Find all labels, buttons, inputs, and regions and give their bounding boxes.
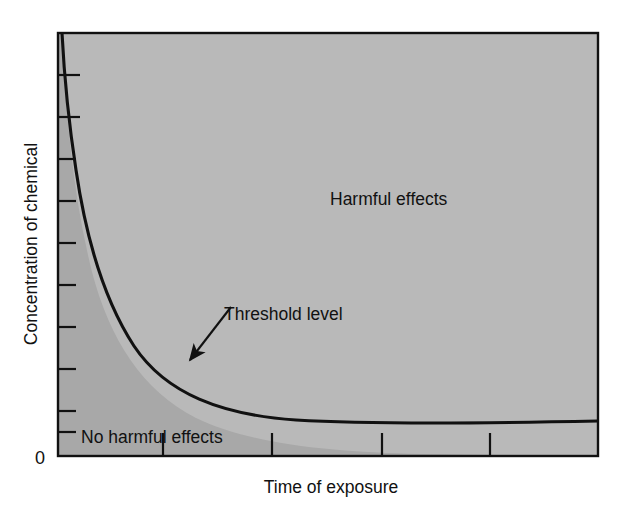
- plot-regions: [58, 33, 598, 456]
- y-axis-title: Concentration of chemical: [21, 143, 41, 345]
- no-harmful-effects-label: No harmful effects: [81, 427, 223, 447]
- origin-label: 0: [35, 448, 45, 468]
- harmful-effects-label: Harmful effects: [330, 189, 448, 209]
- x-axis-title: Time of exposure: [264, 477, 399, 497]
- chart-figure: Concentration of chemical Time of exposu…: [0, 0, 626, 519]
- chart-canvas: Concentration of chemical Time of exposu…: [0, 0, 626, 519]
- threshold-level-label: Threshold level: [224, 304, 343, 324]
